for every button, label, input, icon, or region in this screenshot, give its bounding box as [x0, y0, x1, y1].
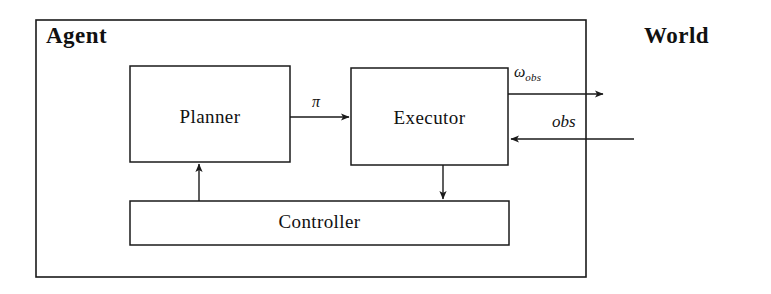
omega-obs-edge-label: ωobs — [514, 63, 541, 83]
obs-edge-label: obs — [552, 112, 576, 132]
pi-edge-label: π — [312, 93, 320, 111]
omega-symbol: ω — [514, 63, 525, 80]
omega-subscript: obs — [525, 71, 541, 83]
diagram-canvas: Agent World Planner Executor Controller … — [0, 0, 771, 294]
controller-label: Controller — [130, 211, 509, 233]
agent-title: Agent — [46, 23, 107, 49]
agent-container-box — [36, 20, 586, 277]
world-title: World — [644, 23, 709, 49]
planner-label: Planner — [130, 106, 290, 128]
executor-label: Executor — [351, 107, 508, 129]
